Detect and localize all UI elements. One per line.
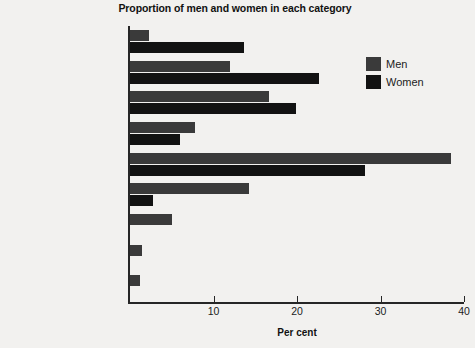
bar-men-4	[130, 153, 451, 164]
bar-women-2	[130, 103, 296, 114]
x-axis-tick-20	[297, 296, 298, 302]
legend-swatch-men	[366, 57, 381, 71]
bar-women-4	[130, 165, 365, 176]
chart-legend: Men Women	[366, 55, 424, 91]
bar-men-6	[130, 214, 172, 225]
bar-men-7	[130, 245, 142, 256]
x-axis-tick-30	[381, 296, 382, 302]
legend-item-men: Men	[366, 55, 424, 73]
legend-label-men: Men	[386, 58, 407, 70]
bar-men-0	[130, 30, 149, 41]
legend-item-women: Women	[366, 73, 424, 91]
x-axis-tick-label-40: 40	[444, 305, 475, 317]
x-axis-tick-label-30: 30	[361, 305, 401, 317]
bar-women-5	[130, 195, 153, 206]
bar-men-5	[130, 183, 249, 194]
chart-title: Proportion of men and women in each cate…	[0, 2, 470, 14]
x-axis-tick-label-10: 10	[194, 305, 234, 317]
x-axis-title: Per cent	[130, 327, 464, 338]
bar-women-0	[130, 42, 244, 53]
x-axis-tick-40	[464, 296, 465, 302]
bar-men-8	[130, 275, 140, 286]
bar-women-1	[130, 73, 319, 84]
legend-swatch-women	[366, 75, 381, 89]
x-axis-tick-10	[214, 296, 215, 302]
x-axis-tick-label-20: 20	[277, 305, 317, 317]
bar-women-3	[130, 134, 180, 145]
legend-label-women: Women	[386, 76, 424, 88]
bar-men-2	[130, 91, 269, 102]
bar-men-1	[130, 61, 230, 72]
bar-men-3	[130, 122, 195, 133]
